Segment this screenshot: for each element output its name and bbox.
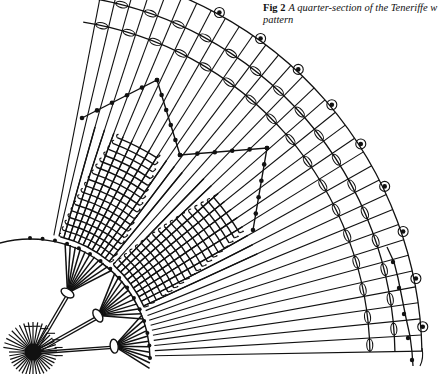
center-hub bbox=[3, 322, 62, 374]
caption-line-1: A quarter-section of the Teneriffe w bbox=[288, 2, 437, 13]
teneriffe-lace-diagram bbox=[0, 0, 440, 374]
outer-rings bbox=[83, 0, 428, 366]
figure-caption: Fig 2A quarter-section of the Teneriffe … bbox=[263, 2, 440, 26]
radial-spokes bbox=[0, 0, 422, 358]
figure-label: Fig 2 bbox=[263, 2, 285, 13]
caption-line-2: pattern bbox=[263, 14, 440, 26]
